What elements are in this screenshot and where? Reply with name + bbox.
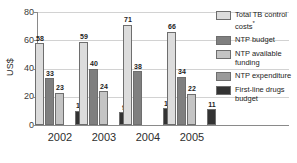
y-tick-label-20: 20	[14, 92, 34, 101]
bar-value-label-ntp-budget-2004: 38	[127, 63, 149, 70]
bar-value-label-ntp-available-funding-2002: 23	[49, 84, 71, 91]
legend-label-ntp-budget: NTP budget	[235, 35, 275, 44]
bar-value-label-total-tb-control-costs-2005: 66	[161, 23, 183, 30]
x-tick-label-2004: 2004	[125, 131, 171, 143]
plot-area: 58332310594024971381266342211	[38, 12, 214, 125]
legend-swatch-ntp-available-funding	[216, 50, 231, 59]
bar-total-tb-control-costs-2002	[35, 43, 44, 125]
bar-ntp-budget-2003	[89, 69, 98, 126]
legend-label-ntp-available-funding: NTP availablefunding	[235, 49, 282, 67]
bar-group-2003: 5940249	[82, 12, 126, 125]
legend: Total TB controlcosts*NTP budgetNTP avai…	[216, 10, 297, 107]
bar-value-label-ntp-budget-2003: 40	[83, 60, 105, 67]
legend-swatch-ntp-budget	[216, 36, 231, 45]
bar-value-label-ntp-available-funding-2005: 22	[181, 85, 203, 92]
bar-ntp-available-funding-2005	[187, 94, 196, 125]
bar-ntp-budget-2004	[133, 71, 142, 125]
x-tick-label-2005: 2005	[169, 131, 215, 143]
y-tick-label-40: 40	[14, 64, 34, 73]
bar-value-label-ntp-budget-2002: 33	[39, 70, 61, 77]
y-tick-label-80: 80	[14, 8, 34, 17]
bar-total-tb-control-costs-2005	[167, 32, 176, 125]
y-tick-label-0: 0	[14, 121, 34, 130]
legend-label-total-tb-control-costs: Total TB controlcosts*	[235, 10, 287, 31]
legend-item-ntp-expenditure[interactable]: NTP expenditure	[216, 71, 297, 81]
bar-ntp-available-funding-2002	[55, 93, 64, 125]
bar-total-tb-control-costs-2003	[79, 42, 88, 125]
bar-ntp-available-funding-2003	[99, 91, 108, 125]
legend-swatch-ntp-expenditure	[216, 72, 231, 81]
legend-item-ntp-budget[interactable]: NTP budget	[216, 35, 297, 45]
legend-label-ntp-expenditure: NTP expenditure	[235, 71, 291, 80]
legend-item-ntp-available-funding[interactable]: NTP availablefunding	[216, 49, 297, 67]
bar-chart: US$ 020406080 58332310594024971381266342…	[0, 0, 297, 163]
bar-value-label-total-tb-control-costs-2002: 58	[29, 35, 51, 42]
x-tick-label-2003: 2003	[81, 131, 127, 143]
legend-item-first-line-drugs-budget[interactable]: First-line drugsbudget	[216, 85, 297, 103]
bar-ntp-budget-2005	[177, 77, 186, 125]
x-axis-line	[37, 125, 289, 126]
bar-total-tb-control-costs-2004	[123, 25, 132, 125]
bar-group-2002: 58332310	[38, 12, 82, 125]
bar-value-label-ntp-budget-2005: 34	[171, 68, 193, 75]
legend-swatch-total-tb-control-costs	[216, 11, 231, 20]
legend-swatch-first-line-drugs-budget	[216, 86, 231, 95]
x-tick-label-2002: 2002	[37, 131, 83, 143]
legend-item-total-tb-control-costs[interactable]: Total TB controlcosts*	[216, 10, 297, 31]
bar-first-line-drugs-budget-2005	[207, 109, 216, 125]
legend-label-first-line-drugs-budget: First-line drugsbudget	[235, 85, 285, 103]
bar-value-label-total-tb-control-costs-2004: 71	[117, 16, 139, 23]
bar-value-label-total-tb-control-costs-2003: 59	[73, 33, 95, 40]
bar-value-label-ntp-available-funding-2003: 24	[93, 83, 115, 90]
bar-group-2005: 66342211	[170, 12, 214, 125]
